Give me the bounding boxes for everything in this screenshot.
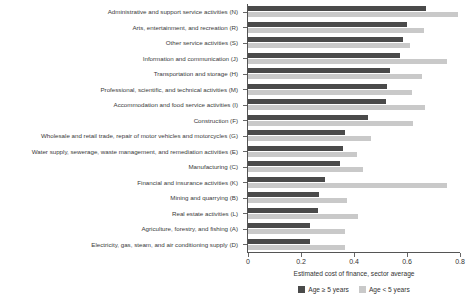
bar-age-under-5 bbox=[248, 198, 347, 203]
bar-age-under-5 bbox=[248, 167, 363, 172]
y-axis-tick bbox=[243, 120, 247, 121]
bar-age-under-5 bbox=[248, 74, 422, 79]
y-axis-tick bbox=[243, 182, 247, 183]
bar-age-5-plus bbox=[248, 53, 400, 58]
y-axis-tick bbox=[243, 89, 247, 90]
bar-age-under-5 bbox=[248, 136, 371, 141]
bar-age-5-plus bbox=[248, 6, 426, 11]
y-axis-tick bbox=[243, 151, 247, 152]
bar-age-5-plus bbox=[248, 115, 368, 120]
category-label: Water supply, sewerage, waste management… bbox=[0, 144, 242, 160]
category-label: Transportation and storage (H) bbox=[0, 66, 242, 82]
bar-group bbox=[248, 237, 460, 253]
y-axis-tick bbox=[243, 167, 247, 168]
x-axis-tick-label: 0 bbox=[246, 258, 250, 265]
bar-group bbox=[248, 97, 460, 113]
x-axis-tick-label: 0.6 bbox=[402, 258, 412, 265]
legend-label: Age < 5 years bbox=[369, 286, 410, 293]
category-label: Manufacturing (C) bbox=[0, 159, 242, 175]
chart-legend: Age ≥ 5 yearsAge < 5 years bbox=[248, 286, 460, 293]
bar-age-5-plus bbox=[248, 208, 318, 213]
x-axis-tick-label: 0.2 bbox=[296, 258, 306, 265]
bar-age-5-plus bbox=[248, 161, 340, 166]
bar-group bbox=[248, 35, 460, 51]
y-axis-tick bbox=[243, 27, 247, 28]
bar-age-under-5 bbox=[248, 105, 425, 110]
bar-age-5-plus bbox=[248, 22, 407, 27]
category-label: Accommodation and food service activitie… bbox=[0, 97, 242, 113]
category-label: Mining and quarrying (B) bbox=[0, 190, 242, 206]
y-axis-tick bbox=[243, 198, 247, 199]
legend-label: Age ≥ 5 years bbox=[308, 286, 349, 293]
x-axis-tick bbox=[407, 253, 408, 257]
bar-age-under-5 bbox=[248, 183, 447, 188]
bar-age-under-5 bbox=[248, 152, 357, 157]
bar-age-under-5 bbox=[248, 214, 358, 219]
legend-item: Age ≥ 5 years bbox=[298, 286, 349, 293]
bar-age-under-5 bbox=[248, 121, 413, 126]
bar-group bbox=[248, 206, 460, 222]
bar-age-under-5 bbox=[248, 90, 412, 95]
category-label: Real estate activities (L) bbox=[0, 206, 242, 222]
x-axis-tick-label: 0.8 bbox=[455, 258, 465, 265]
bar-group bbox=[248, 66, 460, 82]
bar-group bbox=[248, 20, 460, 36]
bar-age-5-plus bbox=[248, 68, 390, 73]
y-axis-tick bbox=[243, 105, 247, 106]
legend-swatch-icon bbox=[359, 286, 366, 293]
y-axis-tick bbox=[243, 213, 247, 214]
bar-age-5-plus bbox=[248, 223, 310, 228]
category-label: Arts, entertainment, and recreation (R) bbox=[0, 20, 242, 36]
category-label: Information and communication (J) bbox=[0, 51, 242, 67]
bar-group bbox=[248, 144, 460, 160]
bar-age-5-plus bbox=[248, 37, 403, 42]
y-axis-tick bbox=[243, 136, 247, 137]
legend-item: Age < 5 years bbox=[359, 286, 410, 293]
category-label: Financial and insurance activities (K) bbox=[0, 175, 242, 191]
legend-swatch-icon bbox=[298, 286, 305, 293]
category-label: Construction (F) bbox=[0, 113, 242, 129]
category-axis-labels: Administrative and support service activ… bbox=[0, 4, 242, 252]
bar-group bbox=[248, 128, 460, 144]
category-label: Other service activities (S) bbox=[0, 35, 242, 51]
plot-area bbox=[248, 4, 460, 252]
bar-group bbox=[248, 190, 460, 206]
x-axis-tick bbox=[301, 253, 302, 257]
bar-group bbox=[248, 113, 460, 129]
category-label: Wholesale and retail trade, repair of mo… bbox=[0, 128, 242, 144]
y-axis-tick bbox=[243, 43, 247, 44]
bar-age-5-plus bbox=[248, 177, 325, 182]
category-label: Administrative and support service activ… bbox=[0, 4, 242, 20]
bar-age-under-5 bbox=[248, 12, 458, 17]
bar-group bbox=[248, 51, 460, 67]
category-label: Professional, scientific, and technical … bbox=[0, 82, 242, 98]
bar-group bbox=[248, 82, 460, 98]
bar-age-5-plus bbox=[248, 146, 343, 151]
x-axis-title: Estimated cost of finance, sector averag… bbox=[248, 270, 460, 277]
category-label: Electricity, gas, steam, and air conditi… bbox=[0, 237, 242, 253]
bar-group bbox=[248, 159, 460, 175]
bar-group bbox=[248, 175, 460, 191]
bar-group bbox=[248, 4, 460, 20]
x-axis-tick bbox=[354, 253, 355, 257]
bar-age-5-plus bbox=[248, 84, 387, 89]
horizontal-bar-chart: Administrative and support service activ… bbox=[0, 0, 469, 304]
bar-age-under-5 bbox=[248, 245, 345, 250]
bar-age-5-plus bbox=[248, 130, 345, 135]
y-axis-tick bbox=[243, 74, 247, 75]
x-axis-tick bbox=[248, 253, 249, 257]
bar-rows bbox=[248, 4, 460, 252]
bar-age-under-5 bbox=[248, 28, 424, 33]
y-axis-tick bbox=[243, 244, 247, 245]
bar-age-5-plus bbox=[248, 239, 310, 244]
x-axis-tick bbox=[460, 253, 461, 257]
bar-age-5-plus bbox=[248, 99, 386, 104]
y-axis-tick bbox=[243, 229, 247, 230]
bar-age-under-5 bbox=[248, 59, 447, 64]
category-label: Agriculture, forestry, and fishing (A) bbox=[0, 221, 242, 237]
y-axis-tick bbox=[243, 12, 247, 13]
x-axis-tick-label: 0.4 bbox=[349, 258, 359, 265]
bar-age-under-5 bbox=[248, 229, 345, 234]
bar-group bbox=[248, 221, 460, 237]
bar-age-5-plus bbox=[248, 192, 319, 197]
